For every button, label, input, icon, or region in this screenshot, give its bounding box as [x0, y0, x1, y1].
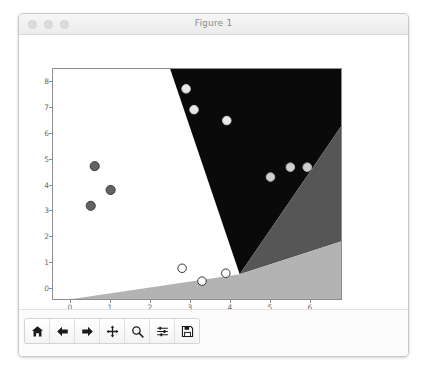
y-tick-label: 1 [40, 258, 49, 267]
cluster-hollow-bottom [178, 264, 230, 285]
data-point [90, 162, 99, 171]
plot-area: 0 1 2 3 4 5 6 0 1 2 3 [52, 68, 342, 300]
data-point [182, 85, 191, 94]
arrow-right-icon [81, 325, 94, 338]
y-tick-mark [49, 288, 52, 289]
y-tick-label: 4 [40, 181, 49, 190]
save-button[interactable] [175, 319, 199, 343]
move-icon [106, 325, 119, 338]
data-point [106, 185, 115, 194]
y-tick-mark [49, 210, 52, 211]
figure-window: Figure 1 [18, 13, 409, 357]
zoom-button[interactable] [125, 319, 150, 343]
y-tick-label: 5 [40, 155, 49, 164]
y-tick-label: 7 [40, 103, 49, 112]
sliders-icon [156, 325, 169, 338]
data-point [286, 163, 295, 172]
axes [52, 68, 342, 300]
y-tick-mark [49, 107, 52, 108]
title-bar[interactable]: Figure 1 [19, 14, 408, 35]
y-tick-mark [49, 236, 52, 237]
y-tick-mark [49, 262, 52, 263]
data-point [303, 163, 312, 172]
y-tick-label: 2 [40, 232, 49, 241]
y-tick-mark [49, 185, 52, 186]
home-icon [31, 325, 44, 338]
y-tick-label: 3 [40, 206, 49, 215]
pan-button[interactable] [100, 319, 125, 343]
back-button[interactable] [50, 319, 75, 343]
floppy-disk-icon [181, 325, 194, 338]
y-tick-label: 6 [40, 129, 49, 138]
navigation-toolbar [19, 309, 408, 356]
cluster-light-top [182, 85, 231, 125]
window-title: Figure 1 [19, 18, 408, 28]
data-point [190, 105, 199, 114]
y-tick-label: 0 [40, 284, 49, 293]
arrow-left-icon [56, 325, 69, 338]
y-tick-label: 8 [40, 77, 49, 86]
data-point [266, 173, 275, 182]
home-button[interactable] [25, 319, 50, 343]
cluster-light-right [266, 163, 311, 181]
configure-subplots-button[interactable] [150, 319, 175, 343]
data-point [178, 264, 187, 273]
y-tick-mark [49, 133, 52, 134]
cluster-dark [86, 162, 115, 211]
data-point [198, 277, 207, 286]
data-point [222, 269, 231, 278]
y-tick-mark [49, 81, 52, 82]
toolbar-button-group [24, 318, 200, 344]
data-point [223, 116, 232, 125]
figure-canvas: 0 1 2 3 4 5 6 0 1 2 3 [19, 35, 408, 330]
forward-button[interactable] [75, 319, 100, 343]
y-tick-mark [49, 159, 52, 160]
data-point [86, 201, 95, 210]
scatter-layer [53, 69, 341, 299]
magnifier-icon [131, 325, 144, 338]
